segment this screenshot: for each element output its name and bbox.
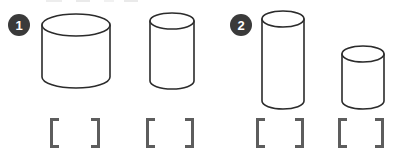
worksheet-page: 1 2	[0, 0, 396, 153]
bracket-left-icon	[146, 118, 155, 148]
bracket-left-icon	[50, 118, 59, 148]
bracket-right-icon	[295, 118, 304, 148]
bracket-left-icon	[256, 118, 265, 148]
clipped-content-artifact	[124, 0, 138, 2]
answer-bracket-1a[interactable]	[50, 118, 100, 148]
answer-bracket-1b[interactable]	[146, 118, 194, 148]
problem-number-badge-1: 1	[8, 14, 30, 36]
cylinder-2a	[260, 10, 306, 110]
bracket-right-icon	[91, 118, 100, 148]
answer-bracket-2a[interactable]	[256, 118, 304, 148]
cylinder-1a	[40, 14, 112, 88]
clipped-content-artifact	[104, 0, 114, 2]
cylinder-1b	[148, 12, 196, 90]
clipped-content-artifact	[46, 0, 62, 2]
cylinder-2b	[340, 45, 386, 110]
bracket-right-icon	[185, 118, 194, 148]
bracket-right-icon	[375, 118, 384, 148]
answer-bracket-2b[interactable]	[338, 118, 384, 148]
clipped-content-artifact	[76, 0, 90, 2]
bracket-left-icon	[338, 118, 347, 148]
problem-number-badge-2: 2	[230, 14, 252, 36]
